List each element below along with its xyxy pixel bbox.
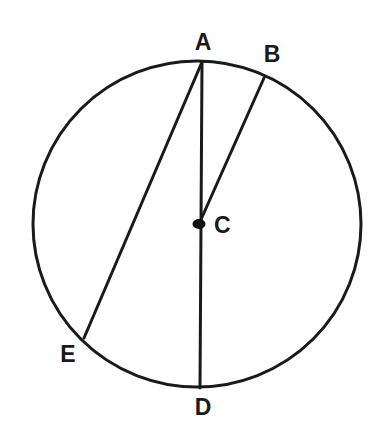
label-point-e: E: [60, 341, 75, 367]
label-point-a: A: [195, 29, 212, 55]
label-point-d: D: [195, 394, 212, 420]
label-point-c: C: [214, 212, 231, 238]
segment-c-b-radius: [199, 78, 264, 224]
geometry-diagram: A B C D E: [0, 0, 385, 429]
label-point-b: B: [264, 41, 281, 67]
circle-diagram-canvas: A B C D E: [0, 0, 385, 429]
segment-a-e-chord: [84, 62, 202, 338]
center-point-dot: [193, 219, 206, 229]
